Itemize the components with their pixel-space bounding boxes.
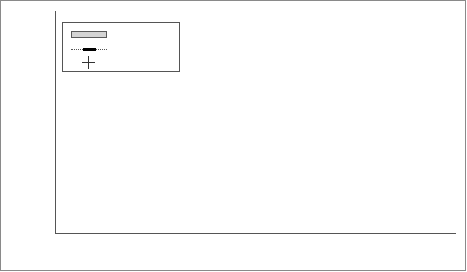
chart-figure bbox=[0, 0, 467, 272]
chart-legend bbox=[62, 22, 180, 72]
plus-marker-icon bbox=[82, 56, 95, 69]
x-axis-line bbox=[55, 233, 456, 234]
estimate-swatch-icon bbox=[71, 31, 107, 38]
dash-marker-icon bbox=[83, 48, 96, 51]
